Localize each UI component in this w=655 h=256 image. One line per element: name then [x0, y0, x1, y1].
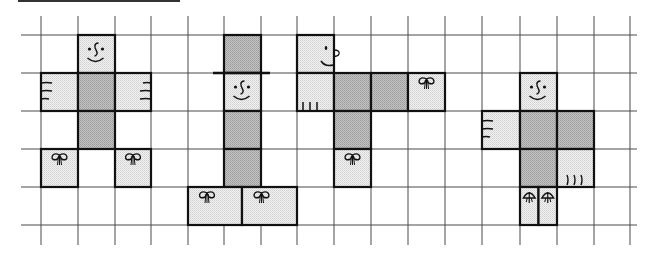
- cell-head: [297, 35, 339, 73]
- cell-hand: [297, 73, 334, 111]
- right-hand-block: [115, 73, 151, 111]
- cell-foot-right: [408, 73, 445, 111]
- cell-torso: [334, 73, 371, 111]
- cell-legs: [334, 111, 371, 149]
- finger-icon: [482, 136, 490, 137]
- cell-torso-extension: [557, 111, 594, 149]
- cell-head: [224, 73, 261, 111]
- finger-icon: [140, 90, 151, 91]
- left-hand-block: [482, 111, 520, 149]
- cell-hat: [224, 35, 261, 73]
- figure-grid-diagram: [0, 0, 655, 256]
- cell-left-foot: [188, 187, 242, 225]
- eye-icon: [325, 46, 328, 50]
- finger-icon: [143, 82, 151, 83]
- left-foot-block: [188, 187, 242, 225]
- cell-legs: [78, 111, 115, 149]
- diagram-stage: [0, 0, 655, 256]
- cell-torso: [224, 111, 261, 149]
- cell-torso: [520, 111, 557, 149]
- head-block: [297, 35, 334, 73]
- figure-4-small-feet-figure: [482, 73, 594, 225]
- finger-icon: [41, 82, 52, 83]
- figure-2-hat-figure: [188, 35, 297, 225]
- figure-1-front-view: [41, 35, 151, 187]
- finger-icon: [482, 120, 493, 121]
- cell-torso: [78, 73, 115, 111]
- cell-right-hand: [557, 149, 594, 187]
- torso-block: [334, 73, 371, 111]
- eye-icon: [101, 47, 104, 50]
- cell-left-foot: [41, 149, 78, 187]
- legs-block: [224, 149, 261, 187]
- eye-icon: [530, 85, 533, 88]
- legs-block: [334, 111, 371, 149]
- finger-icon: [482, 128, 493, 129]
- torso-block: [224, 111, 261, 149]
- torso-block: [78, 73, 115, 111]
- figures: [41, 35, 594, 225]
- left-hand-block: [41, 73, 78, 111]
- cell-left-foot: [520, 187, 539, 225]
- eye-icon: [543, 85, 546, 88]
- cell-torso-extension: [371, 73, 408, 111]
- cell-right-hand: [115, 73, 151, 111]
- eye-icon: [247, 85, 250, 88]
- finger-icon: [140, 98, 151, 99]
- cell-legs: [520, 149, 557, 187]
- cell-right-foot: [242, 187, 297, 225]
- eye-icon: [88, 47, 91, 50]
- cell-foot-bottom: [334, 149, 371, 187]
- legs-block: [520, 149, 557, 187]
- torso-extension-block: [371, 73, 408, 111]
- finger-icon: [41, 90, 52, 91]
- cell-left-hand: [41, 73, 78, 111]
- cell-head: [520, 73, 557, 111]
- legs-block: [78, 111, 115, 149]
- eye-icon: [234, 85, 237, 88]
- torso-extension-block: [557, 111, 594, 149]
- cell-right-foot: [539, 187, 558, 225]
- cell-right-foot: [115, 149, 151, 187]
- hat-block: [224, 35, 261, 73]
- right-foot-block: [242, 187, 297, 225]
- torso-block: [520, 111, 557, 149]
- cell-legs: [224, 149, 261, 187]
- finger-icon: [41, 98, 49, 99]
- cell-left-hand: [482, 111, 520, 149]
- cell-head: [78, 35, 115, 73]
